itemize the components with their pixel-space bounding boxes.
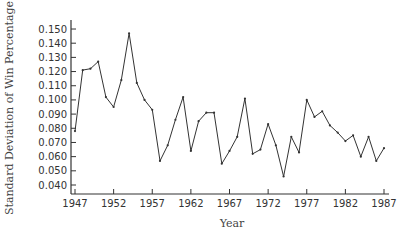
data-point [360, 156, 362, 158]
y-axis: 0.0400.0500.0600.0700.0800.0900.1000.110… [38, 20, 76, 194]
y-tick-label: 0.140 [38, 38, 67, 49]
data-point [337, 131, 339, 133]
x-tick-label: 1962 [178, 198, 203, 209]
data-point [221, 163, 223, 165]
data-point [113, 106, 115, 108]
data-point [182, 96, 184, 98]
x-axis: 194719521957196219671972197719821987 [62, 189, 396, 209]
y-tick-label: 0.130 [38, 52, 67, 63]
data-point [236, 136, 238, 138]
data-point [375, 160, 377, 162]
y-tick-label: 0.070 [38, 137, 67, 148]
data-point [228, 150, 230, 152]
data-point [151, 109, 153, 111]
line-chart: 0.0400.0500.0600.0700.0800.0900.1000.110… [0, 0, 412, 238]
data-point [82, 69, 84, 71]
data-point [267, 123, 269, 125]
data-point [190, 150, 192, 152]
x-tick-label: 1947 [62, 198, 87, 209]
data-point [282, 175, 284, 177]
data-point [367, 136, 369, 138]
x-tick-label: 1957 [140, 198, 165, 209]
data-point [213, 112, 215, 114]
y-tick-label: 0.150 [38, 24, 67, 35]
data-point [352, 134, 354, 136]
x-tick-label: 1952 [101, 198, 126, 209]
data-point [198, 120, 200, 122]
data-point [136, 82, 138, 84]
data-point [383, 147, 385, 149]
y-tick-label: 0.090 [38, 109, 67, 120]
x-tick-label: 1982 [333, 198, 358, 209]
y-axis-title: Standard Deviation of Win Percentage [3, 1, 16, 215]
data-series [74, 32, 385, 177]
data-point [205, 112, 207, 114]
x-tick-label: 1972 [255, 198, 280, 209]
data-point [74, 130, 76, 132]
data-point [174, 119, 176, 121]
y-tick-label: 0.040 [38, 180, 67, 191]
data-point [298, 151, 300, 153]
data-point [259, 148, 261, 150]
y-tick-label: 0.080 [38, 123, 67, 134]
data-point [306, 99, 308, 101]
data-point [321, 110, 323, 112]
data-point [159, 160, 161, 162]
data-point [128, 32, 130, 34]
data-point [313, 116, 315, 118]
x-tick-label: 1987 [371, 198, 396, 209]
y-tick-label: 0.050 [38, 165, 67, 176]
data-point [329, 124, 331, 126]
data-point [344, 140, 346, 142]
y-tick-label: 0.100 [38, 94, 67, 105]
data-point [105, 96, 107, 98]
data-point [167, 144, 169, 146]
data-point [143, 99, 145, 101]
x-tick-label: 1967 [217, 198, 242, 209]
y-tick-label: 0.120 [38, 66, 67, 77]
series-line [75, 33, 384, 176]
data-point [97, 61, 99, 63]
x-axis-title: Year [219, 217, 245, 230]
x-tick-label: 1977 [294, 198, 319, 209]
data-point [120, 79, 122, 81]
y-tick-label: 0.110 [38, 80, 67, 91]
data-point [89, 68, 91, 70]
data-point [275, 144, 277, 146]
data-point [252, 153, 254, 155]
data-point [244, 97, 246, 99]
y-tick-label: 0.060 [38, 151, 67, 162]
data-point [290, 136, 292, 138]
